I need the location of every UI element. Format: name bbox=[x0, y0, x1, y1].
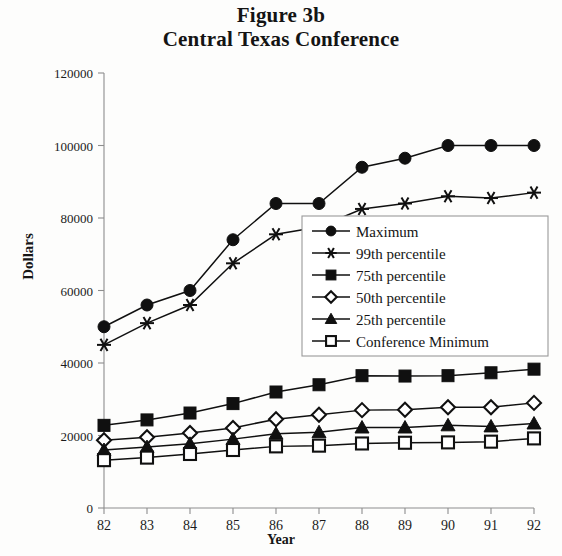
data-point-open-square bbox=[270, 440, 282, 452]
data-point-filled-square bbox=[528, 363, 540, 375]
y-tick-label: 60000 bbox=[61, 284, 94, 299]
x-axis-label: Year bbox=[0, 532, 562, 548]
y-tick-label: 20000 bbox=[61, 429, 94, 444]
x-tick-label: 92 bbox=[527, 518, 541, 533]
data-point-filled-circle bbox=[141, 299, 153, 311]
x-tick-label: 84 bbox=[183, 518, 197, 533]
y-tick-label: 0 bbox=[87, 501, 94, 516]
data-point-open-square bbox=[141, 452, 153, 464]
y-tick-label: 100000 bbox=[54, 139, 93, 154]
data-point-filled-square bbox=[313, 379, 325, 391]
data-point-filled-square bbox=[442, 370, 454, 382]
x-tick-label: 90 bbox=[441, 518, 455, 533]
x-tick-label: 85 bbox=[226, 518, 240, 533]
y-tick-label: 40000 bbox=[61, 356, 94, 371]
data-point-open-diamond bbox=[269, 412, 283, 426]
data-point-open-diamond bbox=[355, 403, 369, 417]
data-point-filled-circle bbox=[98, 321, 110, 333]
data-point-star bbox=[527, 187, 541, 199]
data-point-star bbox=[269, 228, 283, 240]
x-tick-label: 88 bbox=[355, 518, 369, 533]
data-point-filled-square bbox=[485, 367, 497, 379]
data-point-filled-circle bbox=[326, 226, 336, 236]
line-chart-plot: 020000400006000080000100000120000 828384… bbox=[0, 0, 562, 556]
x-tick-label: 83 bbox=[140, 518, 154, 533]
data-point-open-diamond bbox=[312, 408, 326, 422]
legend-label: 99th percentile bbox=[356, 246, 446, 262]
data-point-open-square bbox=[442, 436, 454, 448]
data-point-filled-square bbox=[141, 414, 153, 426]
legend-label: 50th percentile bbox=[356, 290, 446, 306]
data-point-filled-circle bbox=[356, 161, 368, 173]
data-point-star bbox=[140, 317, 154, 329]
data-point-filled-circle bbox=[528, 140, 540, 152]
data-point-filled-circle bbox=[227, 234, 239, 246]
x-tick-label: 89 bbox=[398, 518, 412, 533]
data-point-star bbox=[484, 192, 498, 204]
x-tick-label: 87 bbox=[312, 518, 326, 533]
data-point-filled-square bbox=[326, 270, 336, 280]
data-point-open-square bbox=[98, 454, 110, 466]
data-point-filled-triangle bbox=[355, 421, 369, 433]
data-point-star bbox=[441, 190, 455, 202]
chart-legend: Maximum99th percentile75th percentile50t… bbox=[302, 216, 548, 356]
x-tick-label: 91 bbox=[484, 518, 498, 533]
y-tick-label: 80000 bbox=[61, 211, 94, 226]
data-point-filled-circle bbox=[270, 198, 282, 210]
data-point-filled-square bbox=[184, 407, 196, 419]
data-point-open-square bbox=[356, 437, 368, 449]
data-point-open-diamond bbox=[441, 400, 455, 414]
data-point-filled-circle bbox=[184, 285, 196, 297]
data-point-open-square bbox=[227, 444, 239, 456]
data-point-open-square bbox=[399, 437, 411, 449]
data-point-filled-triangle bbox=[441, 418, 455, 430]
x-axis-ticks: 8283848586878889909192 bbox=[97, 508, 541, 533]
data-point-open-square bbox=[313, 440, 325, 452]
data-point-star bbox=[355, 203, 369, 215]
data-point-filled-circle bbox=[399, 152, 411, 164]
data-point-open-square bbox=[485, 436, 497, 448]
data-point-filled-circle bbox=[485, 140, 497, 152]
y-tick-label: 120000 bbox=[54, 66, 93, 81]
data-point-open-diamond bbox=[527, 396, 541, 410]
legend-label: 75th percentile bbox=[356, 268, 446, 284]
y-axis-label: Dollars bbox=[20, 212, 37, 302]
figure-container: Figure 3b Central Texas Conference 02000… bbox=[0, 0, 562, 556]
x-tick-label: 82 bbox=[97, 518, 111, 533]
legend-label: 25th percentile bbox=[356, 312, 446, 328]
data-point-open-square bbox=[326, 336, 336, 346]
legend-label: Maximum bbox=[356, 224, 419, 240]
data-point-filled-square bbox=[356, 370, 368, 382]
data-point-filled-square bbox=[270, 386, 282, 398]
data-point-filled-square bbox=[98, 419, 110, 431]
y-axis-ticks: 020000400006000080000100000120000 bbox=[54, 66, 104, 516]
x-tick-label: 86 bbox=[269, 518, 283, 533]
data-point-filled-circle bbox=[313, 198, 325, 210]
data-point-open-diamond bbox=[484, 400, 498, 414]
data-point-open-square bbox=[528, 432, 540, 444]
data-point-filled-square bbox=[227, 398, 239, 410]
data-point-open-diamond bbox=[398, 403, 412, 417]
data-point-open-square bbox=[184, 448, 196, 460]
data-point-filled-circle bbox=[442, 140, 454, 152]
data-point-filled-square bbox=[399, 370, 411, 382]
data-point-star bbox=[398, 197, 412, 209]
data-point-filled-triangle bbox=[527, 417, 541, 429]
legend-label: Conference Minimum bbox=[356, 334, 489, 350]
